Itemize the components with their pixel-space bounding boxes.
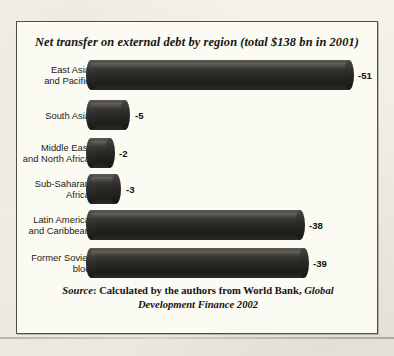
bar-value-label: -3 — [126, 184, 135, 195]
figure-frame: Net transfer on external debt by region … — [16, 21, 378, 334]
bar-cap-right-icon — [344, 60, 354, 90]
bar-cap-left-icon — [86, 210, 96, 240]
bar-cylinder — [91, 138, 110, 168]
category-label: Former Soviet bloc — [0, 252, 90, 274]
category-label: East Asia and Pacific — [0, 64, 90, 86]
bar-cylinder — [91, 210, 300, 240]
bar-cap-left-icon — [86, 138, 96, 168]
bar-sheen — [91, 251, 304, 256]
bar-cap-right-icon — [295, 210, 305, 240]
bar-cap-left-icon — [86, 174, 96, 204]
source-prefix: Source — [62, 285, 93, 296]
bar-cylinder — [91, 100, 125, 130]
scan-edge-line — [0, 337, 394, 339]
bar-cap-right-icon — [120, 100, 130, 130]
bar-cap-left-icon — [86, 248, 96, 278]
category-label: South Asia — [0, 110, 90, 121]
bar-cap-right-icon — [105, 138, 115, 168]
category-label: Latin America and Caribbean — [0, 214, 90, 236]
chart-title: Net transfer on external debt by region … — [17, 35, 377, 50]
bar-sheen — [91, 63, 349, 68]
bar-value-label: -2 — [119, 148, 128, 159]
source-note: Source: Calculated by the authors from W… — [45, 284, 351, 312]
bar-cap-right-icon — [299, 248, 309, 278]
bar-cylinder — [91, 174, 116, 204]
bar-value-label: -5 — [135, 110, 144, 121]
category-label: Middle East and North Africa — [0, 142, 90, 164]
bar-value-label: -38 — [309, 220, 323, 231]
bar-cap-left-icon — [86, 60, 96, 90]
bar-sheen — [91, 213, 300, 218]
bar-cylinder — [91, 248, 304, 278]
bar-value-label: -51 — [358, 70, 372, 81]
bar-cap-right-icon — [111, 174, 121, 204]
bar-cylinder — [91, 60, 349, 90]
category-label: Sub-Saharan Africa — [0, 178, 90, 200]
bar-cap-left-icon — [86, 100, 96, 130]
bar-chart-plot-area: East Asia and Pacific -51 South Asia -5 … — [17, 60, 379, 285]
bar-value-label: -39 — [313, 258, 327, 269]
source-body: Calculated by the authors from World Ban… — [99, 285, 304, 296]
